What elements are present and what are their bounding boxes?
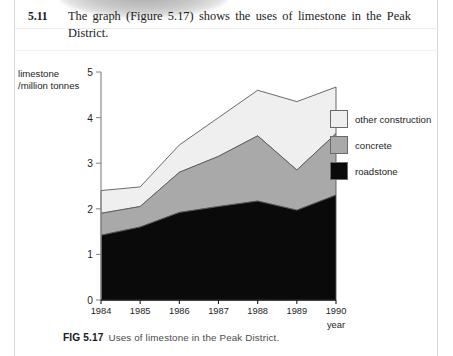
x-tick-label-1988: 1988 <box>247 306 268 316</box>
question-text-line1: The graph (Figure 5.17) shows the uses o… <box>68 9 411 23</box>
legend-item-roadstone: roadstone <box>330 160 431 182</box>
x-tick-label-1984: 1984 <box>91 306 112 316</box>
y-axis-ticks <box>96 72 101 300</box>
page-rule-middle <box>15 50 436 51</box>
legend-label-roadstone: roadstone <box>355 166 398 177</box>
page-edge-right <box>437 0 438 356</box>
question-block: 5.11The graph (Figure 5.17) shows the us… <box>28 8 428 41</box>
question-text-line2: District. <box>68 25 428 41</box>
x-tick-label-1989: 1989 <box>286 306 307 316</box>
y-tick-label-0: 0 <box>79 295 93 306</box>
legend-swatch-concrete <box>330 136 348 154</box>
y-tick-label-5: 5 <box>79 67 93 78</box>
y-tick-label-1: 1 <box>79 249 93 260</box>
legend-item-other-construction: other construction <box>330 108 431 130</box>
chart-areas <box>101 87 336 300</box>
caption-figure-number: FIG 5.17 <box>63 332 103 343</box>
y-tick-label-3: 3 <box>79 158 93 169</box>
question-number: 5.11 <box>28 9 68 25</box>
x-tick-label-1985: 1985 <box>130 306 151 316</box>
x-tick-label-1990: 1990 <box>326 306 347 316</box>
y-tick-label-2: 2 <box>79 203 93 214</box>
legend-label-concrete: concrete <box>355 140 392 151</box>
legend-swatch-other-construction <box>330 110 348 128</box>
legend-label-other-construction: other construction <box>355 114 431 125</box>
legend-item-concrete: concrete <box>330 134 431 156</box>
chart-legend: other constructionconcreteroadstone <box>330 108 431 186</box>
x-tick-label-1986: 1986 <box>169 306 190 316</box>
y-tick-label-4: 4 <box>79 112 93 123</box>
figure-5-17: limestone /million tonnes 012345 1984198… <box>15 58 436 348</box>
caption-description: Uses of limestone in the Peak District. <box>108 332 279 343</box>
legend-swatch-roadstone <box>330 162 348 180</box>
figure-caption: FIG 5.17Uses of limestone in the Peak Di… <box>63 332 423 343</box>
x-tick-label-1987: 1987 <box>208 306 229 316</box>
x-axis-title: year <box>327 320 345 330</box>
